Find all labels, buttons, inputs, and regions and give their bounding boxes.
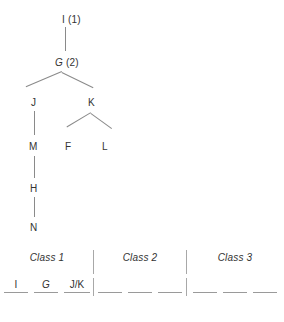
tree-node-G-label: G (55, 57, 63, 68)
class-worksheet: Class 1 I G J/K Class 2 Class 3 (0, 248, 284, 314)
tree-node-K-label: K (88, 97, 95, 108)
class-3-blank-3[interactable] (253, 278, 277, 293)
class-2-blank-3[interactable] (158, 278, 182, 293)
tree-edge-K-F (66, 112, 91, 127)
class-1-blank-1[interactable]: I (4, 278, 28, 293)
class-divider-1-top (93, 250, 94, 274)
tree-node-L: L (102, 141, 108, 152)
class-1-blank-3[interactable]: J/K (64, 278, 90, 293)
class-column-1-title: Class 1 (2, 252, 92, 263)
class-1-blank-2[interactable]: G (34, 278, 58, 293)
class-column-2: Class 2 (96, 248, 184, 314)
class-column-3-blanks (189, 278, 281, 293)
tree-node-H-label: H (30, 183, 37, 194)
tree-node-I-label: I (62, 14, 65, 25)
tree-node-J-label: J (31, 97, 36, 108)
class-3-blank-1[interactable] (193, 278, 217, 293)
tree-node-F: F (65, 141, 71, 152)
tree-node-G: G (2) (55, 57, 79, 68)
tree-node-K: K (88, 97, 95, 108)
class-column-1: Class 1 I G J/K (2, 248, 92, 314)
tree-node-H: H (30, 183, 37, 194)
class-divider-2-bottom (186, 278, 187, 296)
tree-node-I: I (1) (62, 14, 81, 25)
tree-edge-G-K (62, 72, 94, 88)
tree-node-I-number: (1) (68, 14, 81, 25)
class-column-2-title: Class 2 (96, 252, 184, 263)
tree-edge-M-H (34, 156, 35, 178)
tree-node-J: J (31, 97, 36, 108)
tree-edge-J-M (34, 111, 35, 135)
cladogram-figure: I (1) G (2) J K M F (0, 0, 284, 322)
class-column-2-blanks (96, 278, 184, 293)
class-divider-1-bottom (93, 278, 94, 296)
tree-node-F-label: F (65, 141, 71, 152)
class-2-blank-2[interactable] (128, 278, 152, 293)
tree-node-M: M (29, 141, 38, 152)
class-column-1-blanks: I G J/K (2, 278, 92, 293)
class-3-blank-2[interactable] (223, 278, 247, 293)
tree-node-N: N (30, 222, 37, 233)
tree-node-M-label: M (29, 141, 38, 152)
class-divider-2-top (186, 250, 187, 274)
tree-node-N-label: N (30, 222, 37, 233)
tree-edge-I-G (65, 27, 66, 51)
class-2-blank-1[interactable] (98, 278, 122, 293)
tree-node-L-label: L (102, 141, 108, 152)
tree-edge-K-L (90, 113, 112, 129)
class-column-3-title: Class 3 (189, 252, 281, 263)
tree-edge-H-N (34, 197, 35, 217)
tree-edge-G-J (26, 71, 62, 87)
tree-node-G-number: (2) (66, 57, 79, 68)
class-column-3: Class 3 (189, 248, 281, 314)
